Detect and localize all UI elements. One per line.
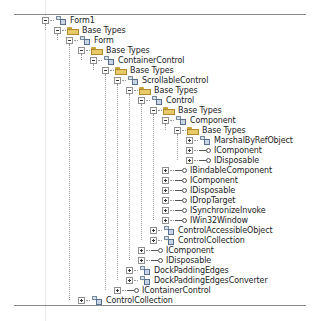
expand-icon[interactable] (126, 267, 133, 274)
collapse-icon[interactable] (42, 17, 49, 24)
tree-node[interactable]: IWin32Window (162, 215, 248, 225)
tree-connector-line (170, 220, 174, 221)
tree-node[interactable]: Form1 (42, 15, 95, 25)
tree-node[interactable]: Base Types (126, 85, 198, 95)
expand-icon[interactable] (114, 287, 121, 294)
collapse-icon[interactable] (114, 77, 121, 84)
tree-node-label: ScrollableControl (142, 76, 208, 85)
expand-icon[interactable] (162, 167, 169, 174)
tree-node-label: DockPaddingEdgesConverter (154, 276, 268, 285)
interface-icon (175, 176, 187, 185)
expand-icon[interactable] (162, 217, 169, 224)
collapse-icon[interactable] (138, 97, 145, 104)
tree-node-label: Base Types (202, 126, 246, 135)
expand-icon[interactable] (138, 257, 145, 264)
tree-node[interactable]: IBindableComponent (162, 165, 272, 175)
tree-connector-line (146, 100, 150, 101)
tree-connector-line (134, 270, 138, 271)
tree-node[interactable]: Control (138, 95, 194, 105)
expand-icon[interactable] (186, 147, 193, 154)
expand-icon[interactable] (162, 197, 169, 204)
tree-node[interactable]: Component (162, 115, 236, 125)
class-icon (103, 56, 115, 65)
class-icon (91, 296, 103, 305)
tree-connector-line (117, 84, 118, 280)
tree-node[interactable]: ControlCollection (78, 295, 173, 305)
tree-node[interactable]: IComponent (162, 175, 238, 185)
tree-node[interactable]: IDisposable (162, 185, 235, 195)
tree-node[interactable]: MarshalByRefObject (186, 135, 293, 145)
tree-node[interactable]: Base Types (174, 125, 246, 135)
expand-icon[interactable] (150, 237, 157, 244)
tree-node-label: ISynchronizeInvoke (190, 206, 266, 215)
expand-icon[interactable] (150, 227, 157, 234)
collapse-icon[interactable] (102, 67, 109, 74)
tree-node[interactable]: DockPaddingEdgesConverter (126, 275, 268, 285)
tree-node[interactable]: Base Types (78, 45, 150, 55)
tree-node-label: Control (166, 96, 194, 105)
folder-icon (163, 106, 175, 115)
collapse-icon[interactable] (174, 127, 181, 134)
tree-node[interactable]: IDropTarget (162, 195, 235, 205)
collapse-icon[interactable] (150, 107, 157, 114)
tree-connector-line (170, 200, 174, 201)
class-icon (79, 36, 91, 45)
tree-node[interactable]: Form (66, 35, 114, 45)
expand-icon[interactable] (162, 207, 169, 214)
expand-icon[interactable] (162, 177, 169, 184)
tree-node-label: IDisposable (166, 256, 211, 265)
tree-connector-line (194, 160, 198, 161)
tree-node[interactable]: IComponent (186, 145, 262, 155)
tree-node-label: Form (94, 36, 114, 45)
type-hierarchy-tree[interactable]: Form1Base TypesFormBase TypesContainerCo… (0, 0, 319, 321)
collapse-icon[interactable] (78, 47, 85, 54)
tree-node[interactable]: IDisposable (186, 155, 259, 165)
tree-connector-line (170, 170, 174, 171)
tree-node[interactable]: Base Types (54, 25, 126, 35)
tree-node-label: Base Types (130, 66, 174, 75)
tree-connector-line (141, 104, 142, 240)
tree-node-label: Base Types (106, 46, 150, 55)
interface-icon (199, 156, 211, 165)
collapse-icon[interactable] (54, 27, 61, 34)
expand-icon[interactable] (162, 187, 169, 194)
tree-node[interactable]: ISynchronizeInvoke (162, 205, 266, 215)
collapse-icon[interactable] (126, 87, 133, 94)
tree-connector-line (50, 20, 54, 21)
tree-node[interactable]: ControlAccessibleObject (150, 225, 273, 235)
tree-node[interactable]: IDisposable (138, 255, 211, 265)
tree-node[interactable]: DockPaddingEdges (126, 265, 229, 275)
expand-icon[interactable] (78, 297, 85, 304)
tree-node[interactable]: ScrollableControl (114, 75, 208, 85)
class-icon (139, 276, 151, 285)
tree-node[interactable]: Base Types (102, 65, 174, 75)
tree-connector-line (177, 134, 178, 160)
tree-node-label: IDisposable (190, 186, 235, 195)
tree-connector-line (146, 250, 150, 251)
tree-node[interactable]: ControlCollection (150, 235, 245, 245)
tree-connector-line (158, 110, 162, 111)
tree-node[interactable]: IComponent (138, 245, 214, 255)
tree-connector-line (134, 90, 138, 91)
collapse-icon[interactable] (162, 117, 169, 124)
collapse-icon[interactable] (66, 37, 73, 44)
collapse-icon[interactable] (90, 57, 97, 64)
tree-connector-line (122, 80, 126, 81)
expand-icon[interactable] (138, 247, 145, 254)
tree-connector-line (129, 94, 130, 260)
expand-icon[interactable] (126, 277, 133, 284)
tree-connector-line (194, 140, 198, 141)
tree-node-label: ControlCollection (106, 296, 173, 305)
tree-node-label: ContainerControl (118, 56, 184, 65)
tree-node[interactable]: ContainerControl (90, 55, 184, 65)
tree-node-label: ControlAccessibleObject (178, 226, 273, 235)
expand-icon[interactable] (186, 157, 193, 164)
expand-icon[interactable] (186, 137, 193, 144)
interface-icon (151, 246, 163, 255)
class-icon (163, 236, 175, 245)
tree-connector-line (110, 70, 114, 71)
tree-connector-line (170, 190, 174, 191)
tree-node[interactable]: Base Types (150, 105, 222, 115)
tree-connector-line (86, 50, 90, 51)
tree-node[interactable]: IContainerControl (114, 285, 211, 295)
